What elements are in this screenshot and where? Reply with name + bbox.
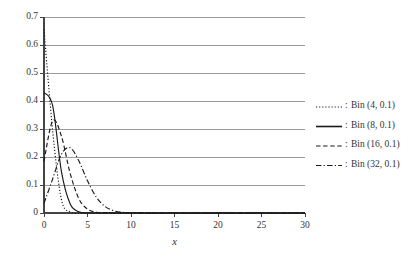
legend-separator-2: : xyxy=(345,139,348,149)
x-tick-label-4: 20 xyxy=(198,220,238,230)
x-tick-label-2: 10 xyxy=(111,220,151,230)
y-tick-label-7: 0.7 xyxy=(26,11,38,21)
y-tick-label-4: 0.4 xyxy=(26,95,38,105)
y-tick-label-1: 0.1 xyxy=(26,179,38,189)
series-line-2 xyxy=(44,120,305,213)
legend-separator-1: : xyxy=(345,120,348,130)
axes xyxy=(40,17,305,217)
series-line-1 xyxy=(44,92,305,213)
y-tick-label-5: 0.5 xyxy=(26,67,38,77)
legend-label-0: Bin (4, 0.1) xyxy=(351,100,395,110)
x-tick-label-1: 5 xyxy=(68,220,108,230)
x-tick-label-0: 0 xyxy=(24,220,64,230)
x-tick-label-3: 15 xyxy=(155,220,195,230)
legend-separator-3: : xyxy=(345,159,348,169)
series-group xyxy=(44,29,305,213)
series-line-0 xyxy=(44,29,305,213)
chart-figure: 00.10.20.30.40.50.60.7051015202530x:Bin … xyxy=(0,0,418,265)
y-tick-label-2: 0.2 xyxy=(26,151,38,161)
x-axis-title: x xyxy=(44,236,305,247)
y-tick-label-0: 0 xyxy=(33,207,38,217)
legend-label-2: Bin (16, 0.1) xyxy=(351,139,400,149)
legend-separator-0: : xyxy=(345,100,348,110)
x-tick-label-5: 25 xyxy=(242,220,282,230)
y-tick-label-3: 0.3 xyxy=(26,123,38,133)
legend-label-3: Bin (32, 0.1) xyxy=(351,159,400,169)
gridlines xyxy=(44,17,305,185)
legend-label-1: Bin (8, 0.1) xyxy=(351,120,395,130)
y-tick-label-6: 0.6 xyxy=(26,39,38,49)
x-tick-label-6: 30 xyxy=(285,220,325,230)
